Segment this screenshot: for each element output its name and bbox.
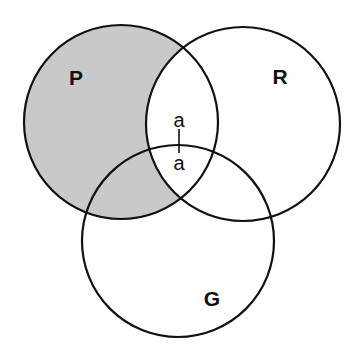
set-label-p: P (69, 66, 83, 89)
venn-diagram: P R G a a (0, 0, 354, 357)
set-label-r: R (272, 65, 287, 88)
set-label-g: G (204, 287, 220, 310)
element-label-a-upper: a (173, 109, 185, 131)
element-label-a-lower: a (173, 152, 185, 174)
